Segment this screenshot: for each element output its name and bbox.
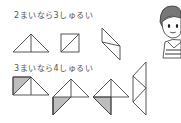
boy-body [163,39,181,58]
boy-illustration [0,0,181,123]
boy-face [162,17,181,39]
